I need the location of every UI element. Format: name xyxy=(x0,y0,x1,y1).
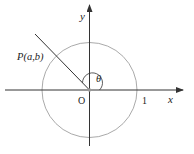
angle-label: θ xyxy=(96,73,101,84)
unit-circle-diagram: y x O 1 P(a,b) θ xyxy=(0,0,194,154)
y-axis-label: y xyxy=(79,10,85,22)
diagram-canvas: y x O 1 P(a,b) θ xyxy=(0,0,194,154)
origin-dot xyxy=(88,88,92,92)
point-label: P(a,b) xyxy=(16,51,44,63)
unit-label: 1 xyxy=(142,95,147,106)
origin-label: O xyxy=(78,95,85,106)
x-axis-label: x xyxy=(167,93,173,105)
